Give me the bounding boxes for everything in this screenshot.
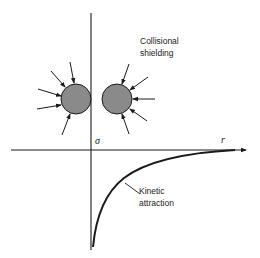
shielding-label-line2: shielding [140, 48, 174, 58]
shielding-diagram [0, 0, 260, 258]
attraction-label-line2: attraction [139, 198, 174, 208]
left-particle [61, 84, 91, 114]
kinetic-attraction-pointer [125, 183, 140, 194]
sigma-label: σ [95, 136, 100, 146]
attraction-label-line1: Kinetic [139, 186, 165, 196]
right-particle [102, 84, 132, 114]
shielding-label-line1: Collisional [140, 36, 179, 46]
r-axis-label: r [221, 135, 225, 145]
